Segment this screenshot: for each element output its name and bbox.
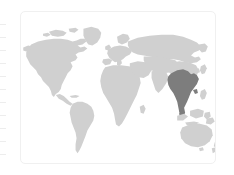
axis-tick	[0, 37, 6, 38]
axis-tick	[0, 24, 6, 25]
region-hainan-highlight[interactable]	[193, 89, 198, 94]
region-central-america[interactable]	[56, 94, 73, 106]
region-madagascar[interactable]	[140, 105, 146, 114]
region-canadian-arctic[interactable]	[49, 30, 67, 37]
axis-tick	[0, 63, 6, 64]
region-new-guinea[interactable]	[206, 118, 215, 125]
region-new-zealand-south[interactable]	[212, 147, 215, 153]
world-map-panel[interactable]	[20, 11, 216, 164]
axis-tick	[0, 115, 6, 116]
map-chart-root	[0, 0, 234, 175]
region-australia[interactable]	[180, 124, 213, 148]
region-italy[interactable]	[117, 59, 122, 66]
axis-tick-strip	[0, 0, 8, 175]
region-india[interactable]	[152, 70, 169, 93]
region-borneo[interactable]	[190, 109, 204, 119]
region-south-america[interactable]	[70, 102, 95, 153]
axis-tick	[0, 128, 6, 129]
axis-tick	[0, 141, 6, 142]
axis-tick	[0, 102, 6, 103]
axis-tick	[0, 154, 6, 155]
region-greenland[interactable]	[83, 27, 101, 46]
region-arctic-island-a[interactable]	[69, 28, 79, 33]
region-new-zealand[interactable]	[214, 140, 215, 148]
axis-tick	[0, 76, 6, 77]
region-north-america[interactable]	[26, 39, 87, 97]
region-caribbean[interactable]	[70, 95, 80, 98]
region-tasmania[interactable]	[199, 147, 204, 151]
region-arctic-island-b[interactable]	[43, 33, 51, 37]
axis-tick	[0, 50, 6, 51]
region-philippines[interactable]	[200, 89, 207, 100]
region-africa[interactable]	[100, 65, 140, 126]
region-sumatra[interactable]	[177, 114, 188, 121]
region-kamchatka[interactable]	[199, 44, 208, 53]
axis-tick	[0, 89, 6, 90]
world-map-svg[interactable]	[21, 12, 215, 163]
region-iberia[interactable]	[102, 58, 112, 65]
region-japan[interactable]	[200, 64, 207, 74]
